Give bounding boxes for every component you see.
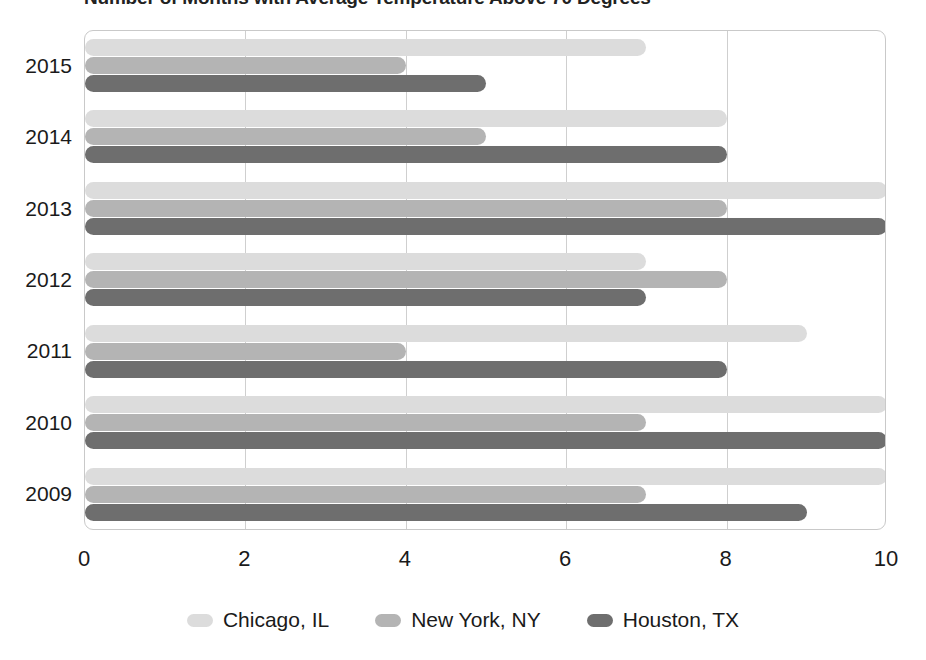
bar-2011-houston-tx[interactable]: [85, 361, 727, 378]
legend-item-chicago-il[interactable]: Chicago, IL: [187, 608, 329, 632]
x-tick-label-4: 4: [375, 546, 435, 572]
legend-item-new-york-ny[interactable]: New York, NY: [375, 608, 541, 632]
bar-2012-new-york-ny[interactable]: [85, 271, 727, 288]
legend-label-chicago-il: Chicago, IL: [223, 608, 329, 632]
y-tick-label-2010: 2010: [0, 412, 72, 434]
bar-2011-chicago-il[interactable]: [85, 325, 807, 342]
bar-2014-chicago-il[interactable]: [85, 110, 727, 127]
y-tick-label-2012: 2012: [0, 269, 72, 291]
chart-title: Number of Months with Average Temperatur…: [84, 0, 884, 9]
y-tick-label-2013: 2013: [0, 198, 72, 220]
bar-2009-new-york-ny[interactable]: [85, 486, 646, 503]
chart-legend: Chicago, ILNew York, NYHouston, TX: [0, 608, 926, 632]
legend-label-houston-tx: Houston, TX: [623, 608, 739, 632]
bar-2011-new-york-ny[interactable]: [85, 343, 406, 360]
bar-2013-houston-tx[interactable]: [85, 218, 886, 235]
bar-2013-new-york-ny[interactable]: [85, 200, 727, 217]
legend-label-new-york-ny: New York, NY: [411, 608, 541, 632]
bar-group-2013: [85, 174, 885, 245]
plot-area: [84, 30, 886, 530]
bar-group-2009: [85, 460, 885, 530]
bar-2010-new-york-ny[interactable]: [85, 414, 646, 431]
bar-2015-new-york-ny[interactable]: [85, 57, 406, 74]
bar-group-2011: [85, 317, 885, 388]
bar-2009-houston-tx[interactable]: [85, 504, 807, 521]
legend-swatch-new-york-ny: [375, 614, 401, 627]
bar-2012-chicago-il[interactable]: [85, 253, 646, 270]
legend-item-houston-tx[interactable]: Houston, TX: [587, 608, 739, 632]
bar-group-2015: [85, 31, 885, 102]
bar-2012-houston-tx[interactable]: [85, 289, 646, 306]
bar-2015-houston-tx[interactable]: [85, 75, 486, 92]
x-tick-label-0: 0: [54, 546, 114, 572]
x-tick-label-8: 8: [696, 546, 756, 572]
bar-group-2012: [85, 245, 885, 316]
y-tick-label-2011: 2011: [0, 340, 72, 362]
bar-2014-new-york-ny[interactable]: [85, 128, 486, 145]
bar-2014-houston-tx[interactable]: [85, 146, 727, 163]
x-tick-label-10: 10: [856, 546, 916, 572]
y-tick-label-2009: 2009: [0, 483, 72, 505]
bar-2009-chicago-il[interactable]: [85, 468, 886, 485]
legend-swatch-chicago-il: [187, 614, 213, 627]
y-tick-label-2015: 2015: [0, 55, 72, 77]
bar-2013-chicago-il[interactable]: [85, 182, 886, 199]
x-tick-label-6: 6: [535, 546, 595, 572]
y-tick-label-2014: 2014: [0, 126, 72, 148]
x-tick-label-2: 2: [214, 546, 274, 572]
bar-2010-chicago-il[interactable]: [85, 396, 886, 413]
bar-chart-figure: Number of Months with Average Temperatur…: [0, 0, 926, 660]
bar-group-2010: [85, 388, 885, 459]
bar-2015-chicago-il[interactable]: [85, 39, 646, 56]
bar-2010-houston-tx[interactable]: [85, 432, 886, 449]
bar-group-2014: [85, 102, 885, 173]
legend-swatch-houston-tx: [587, 614, 613, 627]
